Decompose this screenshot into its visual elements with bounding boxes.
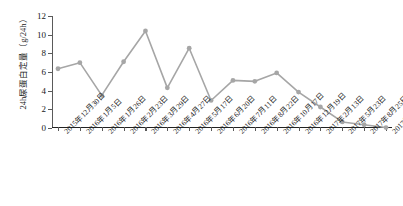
- y-tick-label: 4: [42, 86, 47, 96]
- x-tick-label: 2017年11月20日: [391, 130, 397, 136]
- data-point: [252, 79, 257, 84]
- y-tick-mark: [48, 128, 52, 129]
- x-tick-label: 2016年1月5日: [85, 130, 91, 136]
- x-tick-label: 2016年5月17日: [194, 130, 200, 136]
- y-tick-label: 2: [42, 104, 47, 114]
- data-point: [143, 29, 148, 34]
- x-tick-label: 2016年2月23日: [129, 130, 135, 136]
- y-tick-label: 12: [37, 11, 46, 21]
- x-tick-label: 2017年8月25日: [369, 130, 375, 136]
- x-tick-label: 2016年8月22日: [260, 130, 266, 136]
- x-tick-label: 2017年2月13日: [325, 130, 331, 136]
- data-point: [77, 60, 82, 65]
- x-axis-labels: 2015年12月30日2016年1月5日2016年1月26日2016年2月23日…: [52, 130, 392, 200]
- data-point: [56, 66, 61, 71]
- x-tick-label: 2016年7月11日: [238, 130, 244, 136]
- x-tick-label: 2016年6月20日: [216, 130, 222, 136]
- x-tick-label: 2016年10月17日: [282, 130, 288, 136]
- data-point: [187, 46, 192, 51]
- y-axis-title: 24h尿蛋白定量（g/24h）: [16, 2, 28, 122]
- data-point: [274, 71, 279, 76]
- data-point: [165, 85, 170, 90]
- y-tick-label: 0: [42, 123, 47, 133]
- y-tick-label: 10: [37, 30, 46, 40]
- x-tick-label: 2016年3月29日: [150, 130, 156, 136]
- x-tick-label: 2016年12月19日: [304, 130, 310, 136]
- x-tick-label: 2017年5月23日: [347, 130, 353, 136]
- data-point: [231, 78, 236, 83]
- data-point: [121, 59, 126, 64]
- x-tick-label: 2016年4月27日: [172, 130, 178, 136]
- y-tick-label: 6: [42, 67, 47, 77]
- x-tick-label: 2015年12月30日: [63, 130, 69, 136]
- chart-container: 24h尿蛋白定量（g/24h） 024681012 2015年12月30日201…: [0, 0, 403, 206]
- x-tick-label: 2016年1月26日: [107, 130, 113, 136]
- y-tick-label: 8: [42, 48, 47, 58]
